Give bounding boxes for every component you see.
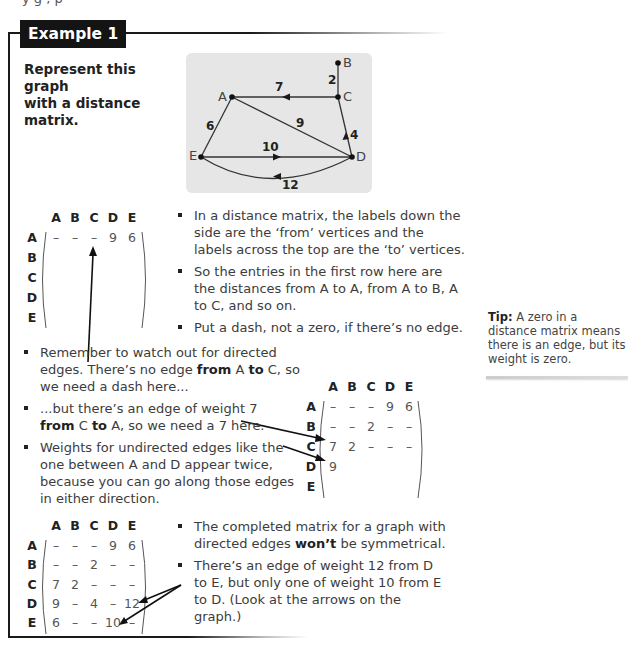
- bold-text: to: [92, 418, 107, 433]
- bold-text: from: [40, 418, 75, 433]
- list-item: The completed matrix for a graph with di…: [176, 518, 446, 552]
- tip-box: Tip: A zero in a distance matrix means t…: [488, 310, 628, 366]
- bold-text: won’t: [295, 536, 336, 551]
- list-item: ...but there’s an edge of weight 7 from …: [22, 400, 307, 434]
- matrix1-right-bracket: [142, 232, 146, 328]
- text: be symmetrical.: [336, 536, 445, 551]
- tip-label: Tip:: [488, 310, 513, 324]
- bold-text: to: [249, 362, 264, 377]
- explanation-list-2: Remember to watch out for directed edges…: [22, 344, 307, 512]
- list-item: So the entries in the first row here are…: [176, 263, 466, 314]
- pointer-arrowhead-icon: [89, 246, 97, 256]
- list-item: Put a dash, not a zero, if there’s no ed…: [176, 319, 466, 336]
- list-item: Remember to watch out for directed edges…: [22, 344, 307, 395]
- text: A: [231, 362, 248, 377]
- pointer-arrowhead-icon: [119, 617, 128, 625]
- list-item: There’s an edge of weight 12 from D to E…: [176, 557, 446, 625]
- text: C: [75, 418, 92, 433]
- list-item: In a distance matrix, the labels down th…: [176, 207, 466, 258]
- matrix2-right-bracket: [418, 401, 422, 498]
- pointer-line-e-d: [123, 585, 181, 622]
- explanation-list-3: The completed matrix for a graph with di…: [176, 518, 446, 630]
- matrix1-left-bracket: [43, 232, 47, 328]
- matrix3-right-bracket: [142, 540, 146, 634]
- list-item: Weights for undirected edges like the on…: [22, 439, 307, 507]
- pointer-arrowhead-icon: [138, 596, 148, 603]
- text: ...but there’s an edge of weight 7: [40, 401, 257, 416]
- text: A, so we need a 7 here.: [107, 418, 264, 433]
- bold-text: from: [197, 362, 232, 377]
- explanation-list-1: In a distance matrix, the labels down th…: [176, 207, 466, 341]
- matrix3-left-bracket: [43, 540, 47, 634]
- tip-divider: [486, 376, 628, 379]
- matrix2-left-bracket: [320, 401, 324, 498]
